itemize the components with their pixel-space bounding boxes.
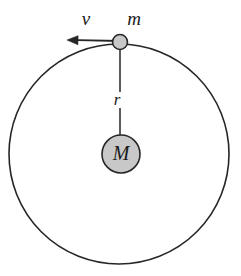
orbital-diagram-figure: v m r M (0, 0, 241, 276)
radius-label: r (114, 90, 121, 109)
orbiting-mass-body (113, 35, 128, 50)
diagram-canvas: v m r M (0, 0, 241, 276)
velocity-label: v (82, 8, 91, 29)
orbiting-mass-label: m (127, 8, 141, 29)
velocity-arrowhead-icon (67, 36, 78, 45)
central-mass-label: M (112, 142, 131, 164)
